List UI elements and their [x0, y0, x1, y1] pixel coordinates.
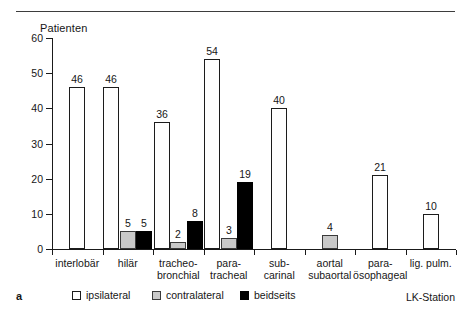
- x-tick-4: [254, 250, 255, 255]
- bar-ligpulm-ipsilateral-value-label: 10: [416, 201, 446, 212]
- x-tick-3: [204, 250, 205, 255]
- legend-label: beidseits: [254, 289, 295, 301]
- y-axis-title: Patienten: [40, 22, 87, 34]
- bar-subcarinal-ipsilateral: [271, 108, 287, 249]
- bar-paraoesophageal-ipsilateral: [372, 175, 388, 249]
- y-tick-label-50: 50: [19, 68, 43, 78]
- bar-interlobaer-ipsilateral: [69, 87, 85, 249]
- y-tick-label-60: 60: [19, 33, 43, 43]
- x-group-label-line1: lig. pulm.: [398, 258, 463, 270]
- figure-bar-chart: Patienten 0102030405060 4646553628543194…: [0, 0, 463, 317]
- x-tick-6: [355, 250, 356, 255]
- bar-hilaer-ipsilateral-value-label: 46: [96, 74, 126, 85]
- bar-paratracheal-ipsilateral: [204, 59, 220, 249]
- y-tick-label-40: 40: [19, 103, 43, 113]
- bar-subcarinal-ipsilateral-value-label: 40: [264, 95, 294, 106]
- y-tick-50: [46, 73, 52, 74]
- bar-ligpulm-ipsilateral: [423, 214, 439, 249]
- bar-paratracheal-ipsilateral-value-label: 54: [197, 46, 227, 57]
- bar-hilaer-beidseits: [136, 231, 152, 249]
- bar-hilaer-contralateral: [120, 231, 136, 249]
- legend-swatch-contra-icon: [152, 291, 161, 300]
- legend-item-beidseits: beidseits: [240, 289, 295, 301]
- y-tick-label-30: 30: [19, 139, 43, 149]
- bar-paratracheal-beidseits-value-label: 19: [230, 169, 260, 180]
- bar-paratracheal-contralateral: [221, 238, 237, 249]
- x-tick-7: [406, 250, 407, 255]
- bar-paraoesophageal-ipsilateral-value-label: 21: [365, 162, 395, 173]
- y-tick-60: [46, 38, 52, 39]
- chart-legend: ipsilateralcontralateralbeidseits: [0, 289, 463, 305]
- legend-label: contralateral: [166, 289, 224, 301]
- legend-label: ipsilateral: [86, 289, 130, 301]
- y-tick-10: [46, 214, 52, 215]
- x-group-label-7: lig. pulm.: [398, 258, 463, 270]
- y-tick-20: [46, 179, 52, 180]
- legend-item-ipsilateral: ipsilateral: [72, 289, 130, 301]
- y-axis-line: [52, 38, 53, 250]
- y-tick-label-20: 20: [19, 174, 43, 184]
- x-tick-5: [305, 250, 306, 255]
- bar-tracheobronchial-contralateral: [170, 242, 186, 249]
- panel-label: a: [16, 290, 22, 302]
- bar-aortalsubaortal-contralateral-value-label: 4: [315, 222, 345, 233]
- legend-item-contralateral: contralateral: [152, 289, 224, 301]
- x-group-label-line2: ösophageal: [347, 270, 414, 282]
- bar-aortalsubaortal-contralateral: [322, 235, 338, 249]
- y-tick-30: [46, 144, 52, 145]
- x-tick-1: [103, 250, 104, 255]
- x-tick-2: [153, 250, 154, 255]
- x-tick-8: [456, 250, 457, 255]
- legend-swatch-beid-icon: [240, 291, 249, 300]
- bar-paratracheal-beidseits: [237, 182, 253, 249]
- bar-tracheobronchial-beidseits: [187, 221, 203, 249]
- y-tick-label-0: 0: [19, 244, 43, 254]
- x-tick-0: [52, 250, 53, 255]
- x-axis-title: LK-Station: [406, 291, 455, 303]
- y-tick-40: [46, 108, 52, 109]
- y-tick-label-10: 10: [19, 209, 43, 219]
- legend-swatch-ipsi-icon: [72, 291, 81, 300]
- bar-tracheobronchial-ipsilateral-value-label: 36: [147, 109, 177, 120]
- bar-interlobaer-ipsilateral-value-label: 46: [62, 74, 92, 85]
